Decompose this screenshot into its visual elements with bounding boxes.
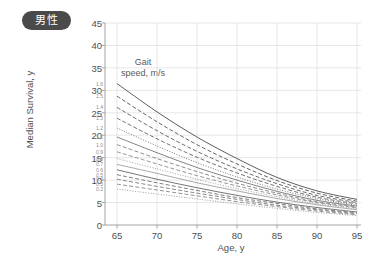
series-label: 1.6	[89, 81, 103, 86]
series-label: 1.0	[89, 142, 103, 147]
series-label: 1.2	[89, 126, 103, 131]
series-label: 1.1	[89, 135, 103, 140]
status-badge: 男性	[22, 11, 71, 30]
series-label: 1.5	[89, 94, 103, 99]
curve-value-labels: 1.61.51.41.31.21.11.00.90.80.70.60.50.40…	[0, 0, 385, 260]
series-label: 0.2	[89, 187, 103, 192]
series-label: 1.4	[89, 105, 103, 110]
series-label: 0.9	[89, 149, 103, 154]
figure-container: 男性 Median Survival, y Age, y Gait speed,…	[0, 0, 385, 260]
series-label: 1.3	[89, 116, 103, 121]
